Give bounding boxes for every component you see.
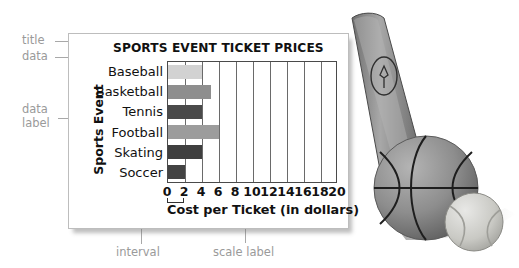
x-tick-label: 8	[231, 184, 240, 199]
bar	[168, 65, 202, 79]
x-tick-label: 18	[311, 184, 328, 199]
chart-title: SPORTS EVENT TICKET PRICES	[113, 41, 324, 55]
annotation-title-label: title	[22, 34, 44, 47]
category-labels: BaseballBasketballTennisFootballSkatingS…	[83, 61, 165, 183]
x-tick-label: 10	[243, 184, 260, 199]
annotation-data-label: data	[22, 50, 48, 63]
bar-row	[168, 142, 336, 162]
category-label: Soccer	[83, 163, 165, 183]
plot-area	[167, 61, 337, 183]
annotation-datalabel-line2: label	[22, 117, 50, 130]
x-tick-label: 12	[260, 184, 277, 199]
category-label: Baseball	[83, 61, 165, 81]
x-tick-label: 6	[214, 184, 223, 199]
category-label: Tennis	[83, 102, 165, 122]
annotation-interval-label: interval	[116, 246, 160, 259]
x-axis-ticks: 02468101214161820	[167, 184, 337, 200]
bar-row	[168, 102, 336, 122]
diagram-stage: title data data label scale interval sca…	[0, 0, 519, 268]
bar	[168, 125, 219, 139]
chart-card: SPORTS EVENT TICKET PRICES Sports Event …	[68, 33, 349, 229]
bar	[168, 85, 211, 99]
tennis-ball-icon	[445, 193, 503, 251]
sports-equipment-photo	[340, 0, 519, 268]
x-tick-label: 0	[163, 184, 172, 199]
annotation-datalabel-line1: data	[22, 103, 48, 116]
bar-row	[168, 122, 336, 142]
bar-row	[168, 162, 336, 182]
x-tick-label: 2	[180, 184, 189, 199]
bars-group	[168, 62, 336, 182]
annotation-scalelabel-label: scale label	[213, 246, 274, 259]
category-label: Basketball	[83, 81, 165, 101]
x-axis-label: Cost per Ticket (in dollars)	[167, 202, 351, 217]
category-label: Football	[83, 122, 165, 142]
bar	[168, 105, 202, 119]
x-tick-label: 14	[277, 184, 294, 199]
bar-row	[168, 82, 336, 102]
bar	[168, 145, 202, 159]
bar	[168, 165, 185, 179]
x-tick-label: 16	[294, 184, 311, 199]
x-tick-label: 4	[197, 184, 206, 199]
category-label: Skating	[83, 142, 165, 162]
bar-row	[168, 62, 336, 82]
